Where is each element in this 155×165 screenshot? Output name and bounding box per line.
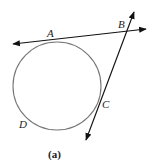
figure-caption: (a)	[48, 148, 61, 161]
point-label-c: C	[102, 98, 110, 110]
tangent-line-ab	[13, 29, 146, 44]
point-label-a: A	[46, 27, 54, 39]
tangent-line-bc	[86, 12, 134, 140]
circle	[13, 42, 101, 130]
point-label-b: B	[118, 18, 125, 30]
point-label-d: D	[18, 118, 27, 130]
tangent-diagram: A B C D (a)	[0, 0, 155, 165]
